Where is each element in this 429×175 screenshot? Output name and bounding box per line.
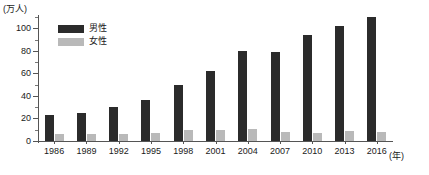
x-tick: [312, 141, 313, 144]
bar-male: [45, 115, 54, 141]
bar-group: [135, 17, 167, 141]
x-tick-label: 2016: [367, 146, 387, 156]
x-tick-label: 2004: [238, 146, 258, 156]
y-tick-label: 80: [21, 46, 31, 56]
chart-legend: 男性 女性: [58, 24, 107, 46]
bar-female: [281, 132, 290, 141]
y-tick-label: 0: [26, 136, 31, 146]
bar-female: [345, 131, 354, 141]
bar-group: [167, 17, 199, 141]
bar-male: [77, 113, 86, 141]
y-tick-major: [33, 141, 38, 142]
x-tick: [54, 141, 55, 144]
x-tick: [280, 141, 281, 144]
x-axis-unit-label: (年): [389, 149, 404, 162]
x-tick: [216, 141, 217, 144]
x-tick-label: 1995: [141, 146, 161, 156]
bar-female: [216, 130, 225, 141]
y-tick-label: 20: [21, 113, 31, 123]
bar-female: [248, 129, 257, 141]
x-tick-label: 1989: [76, 146, 96, 156]
bar-group: [328, 17, 360, 141]
y-axis-unit-label: (万人): [3, 2, 27, 15]
legend-swatch-male-icon: [58, 25, 84, 33]
bar-group: [296, 17, 328, 141]
x-tick: [345, 141, 346, 144]
y-tick-label: 100: [16, 23, 31, 33]
x-tick: [183, 141, 184, 144]
bar-male: [206, 71, 215, 141]
bar-male: [367, 17, 376, 141]
y-tick-label: 40: [21, 91, 31, 101]
bar-male: [174, 85, 183, 141]
x-tick-label: 1986: [44, 146, 64, 156]
bar-male: [238, 51, 247, 141]
legend-item-male: 男性: [58, 24, 107, 33]
bar-female: [313, 133, 322, 141]
x-tick-label: 2013: [335, 146, 355, 156]
x-tick: [86, 141, 87, 144]
bar-group: [232, 17, 264, 141]
bar-male: [303, 35, 312, 141]
x-tick-label: 2007: [270, 146, 290, 156]
legend-label-male: 男性: [89, 24, 107, 33]
bar-male: [141, 100, 150, 141]
bar-male: [271, 52, 280, 141]
bar-group: [361, 17, 393, 141]
y-tick-label: 60: [21, 68, 31, 78]
bar-female: [184, 130, 193, 141]
bar-female: [151, 133, 160, 141]
legend-item-female: 女性: [58, 37, 107, 46]
bar-female: [377, 132, 386, 141]
bar-male: [335, 26, 344, 141]
bar-group: [103, 17, 135, 141]
bar-chart: (万人) (年) 020406080100 198619891992199519…: [0, 0, 429, 175]
x-tick: [151, 141, 152, 144]
x-tick: [248, 141, 249, 144]
bar-female: [87, 134, 96, 141]
bar-female: [55, 134, 64, 141]
bar-female: [119, 134, 128, 141]
x-tick-label: 2010: [302, 146, 322, 156]
x-tick: [377, 141, 378, 144]
x-tick-label: 2001: [205, 146, 225, 156]
x-tick-label: 1992: [109, 146, 129, 156]
bar-male: [109, 107, 118, 141]
bar-group: [264, 17, 296, 141]
x-tick-label: 1998: [173, 146, 193, 156]
legend-swatch-female-icon: [58, 38, 84, 46]
legend-label-female: 女性: [89, 37, 107, 46]
x-tick: [119, 141, 120, 144]
bar-group: [199, 17, 231, 141]
